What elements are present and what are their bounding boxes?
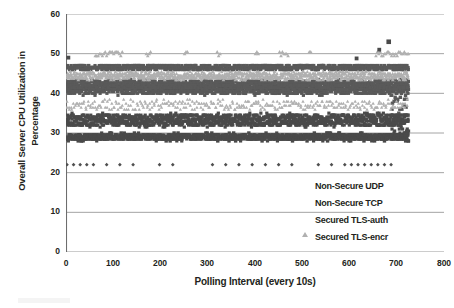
x-tick-label-0: 0 — [51, 258, 81, 268]
y-tick-label-0: 0 — [32, 246, 60, 256]
square-marker-icon — [300, 198, 311, 209]
y-tick-label-20: 20 — [32, 167, 60, 177]
legend-item-non-secure-tcp: Non-Secure TCP — [300, 195, 450, 211]
x-tick-label-800: 800 — [429, 258, 454, 268]
x-tick-label-100: 100 — [98, 258, 128, 268]
y-tick-label-10: 10 — [32, 206, 60, 216]
legend-item-secured-tls-encr: Secured TLS-encr — [300, 229, 450, 245]
x-tick-label-300: 300 — [192, 258, 222, 268]
y-tick-label-50: 50 — [32, 48, 60, 58]
page-scan-artifact — [18, 298, 70, 303]
legend-label-secured-tls-auth: Secured TLS-auth — [315, 215, 388, 225]
cpu-utilization-scatter-chart: Overall Server CPU Utilization in Percen… — [0, 0, 454, 308]
x-tick-label-700: 700 — [381, 258, 411, 268]
y-tick-label-30: 30 — [32, 127, 60, 137]
legend-label-non-secure-udp: Non-Secure UDP — [315, 181, 384, 191]
x-axis-title: Polling Interval (every 10s) — [66, 276, 444, 287]
legend-item-non-secure-udp: Non-Secure UDP — [300, 178, 450, 194]
y-axis-title: Overall Server CPU Utilization in Percen… — [15, 11, 41, 231]
legend-item-secured-tls-auth: Secured TLS-auth — [300, 212, 450, 228]
x-tick-label-600: 600 — [334, 258, 364, 268]
triangle-marker-icon — [300, 215, 311, 226]
x-tick-label-500: 500 — [287, 258, 317, 268]
y-axis-title-line1: Overall Server CPU Utilization in — [16, 51, 27, 191]
chart-legend: Non-Secure UDP Non-Secure TCP Secured TL… — [300, 178, 450, 246]
legend-label-secured-tls-encr: Secured TLS-encr — [315, 232, 388, 242]
y-tick-label-60: 60 — [32, 9, 60, 19]
legend-label-non-secure-tcp: Non-Secure TCP — [315, 198, 383, 208]
x-tick-label-200: 200 — [145, 258, 175, 268]
y-axis-title-line2: Percentage — [28, 11, 41, 231]
series-points-non-secure-udp — [66, 163, 393, 167]
y-tick-label-40: 40 — [32, 88, 60, 98]
square-dark-marker-icon — [300, 232, 311, 243]
diamond-marker-icon — [300, 181, 311, 192]
x-tick-label-400: 400 — [240, 258, 270, 268]
